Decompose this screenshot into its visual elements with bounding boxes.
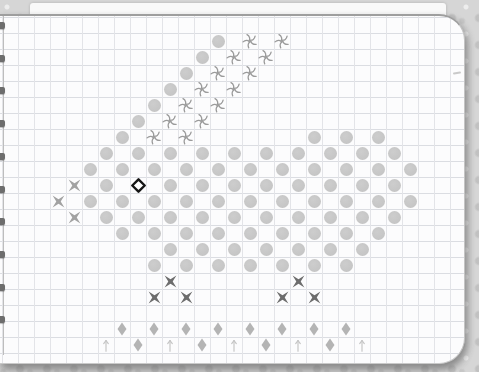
stitch-diamond — [338, 321, 354, 337]
stitch-dot — [322, 241, 338, 257]
stitch-swirl — [242, 65, 258, 81]
stitch-diamond — [274, 321, 290, 337]
stitch-dot — [162, 145, 178, 161]
stitch-diamond — [114, 321, 130, 337]
stitch-dot — [146, 193, 162, 209]
stitch-dot — [274, 225, 290, 241]
stitch-dot — [338, 129, 354, 145]
binding-stub — [0, 22, 5, 29]
stitch-cross-light — [66, 209, 82, 225]
stitch-diamond — [242, 321, 258, 337]
stitch-dot — [114, 129, 130, 145]
stitch-dot — [386, 145, 402, 161]
stitch-dot — [290, 241, 306, 257]
stitch-swirl — [242, 33, 258, 49]
stitch-dot — [162, 241, 178, 257]
stitch-dot — [130, 145, 146, 161]
stitch-dot — [306, 129, 322, 145]
stitch-dot — [402, 193, 418, 209]
stitch-swirl — [210, 97, 226, 113]
stitch-swirl — [226, 81, 242, 97]
stitch-arrow-up — [290, 337, 306, 353]
stitch-dot — [130, 209, 146, 225]
stitch-dot — [306, 193, 322, 209]
stitch-dot — [114, 161, 130, 177]
stitch-dot — [274, 257, 290, 273]
stitch-dot — [242, 225, 258, 241]
stitch-dot — [178, 225, 194, 241]
binding-stub — [0, 120, 5, 127]
stitch-dot — [226, 145, 242, 161]
stitch-diamond — [178, 321, 194, 337]
stitch-dot — [210, 161, 226, 177]
stitch-dot — [338, 193, 354, 209]
stitch-dot — [242, 193, 258, 209]
stitch-diamond — [210, 321, 226, 337]
screenshot-stage — [0, 0, 479, 372]
stitch-dot — [370, 225, 386, 241]
stitch-dot — [114, 225, 130, 241]
binding-stub — [0, 218, 5, 225]
stitch-dot — [322, 145, 338, 161]
stitch-layer — [0, 16, 464, 363]
stitch-dot — [146, 97, 162, 113]
stitch-dot — [370, 193, 386, 209]
binding-stub — [0, 87, 5, 94]
stitch-dot — [210, 193, 226, 209]
stitch-dot — [146, 257, 162, 273]
stitch-swirl — [194, 113, 210, 129]
binding-stub — [0, 251, 5, 258]
stitch-swirl — [226, 49, 242, 65]
stitch-dot — [194, 145, 210, 161]
stitch-dot — [162, 81, 178, 97]
stitch-swirl — [194, 81, 210, 97]
stitch-cross-dark — [306, 289, 322, 305]
stitch-dot — [354, 177, 370, 193]
stitch-dot — [210, 33, 226, 49]
stitch-cross-dark — [178, 289, 194, 305]
stitch-diamond — [258, 337, 274, 353]
stitch-dot — [210, 257, 226, 273]
stitch-dot — [274, 161, 290, 177]
stitch-dot — [194, 241, 210, 257]
stitch-dot — [98, 145, 114, 161]
stitch-swirl — [178, 129, 194, 145]
binding-stub — [0, 55, 5, 62]
stitch-dot — [354, 241, 370, 257]
stitch-arrow-up — [98, 337, 114, 353]
stitch-swirl — [146, 129, 162, 145]
stitch-dot — [162, 209, 178, 225]
stitch-dot — [114, 193, 130, 209]
stitch-swirl — [178, 97, 194, 113]
stitch-cross-dark — [290, 273, 306, 289]
stitch-swirl — [210, 65, 226, 81]
stitch-arrow-up — [162, 337, 178, 353]
stitch-swirl — [162, 113, 178, 129]
stitch-eye — [130, 177, 146, 193]
stitch-dot — [194, 49, 210, 65]
stitch-dot — [354, 145, 370, 161]
stitch-dot — [370, 129, 386, 145]
stitch-dot — [290, 209, 306, 225]
stitch-dot — [386, 209, 402, 225]
stitch-dot — [338, 161, 354, 177]
stitch-dot — [242, 257, 258, 273]
stitch-diamond — [130, 337, 146, 353]
stitch-dot — [98, 209, 114, 225]
stitch-dot — [226, 241, 242, 257]
stitch-diamond — [306, 321, 322, 337]
stitch-dot — [162, 177, 178, 193]
stitch-diamond — [194, 337, 210, 353]
stitch-dot — [82, 161, 98, 177]
stitch-dot — [258, 209, 274, 225]
stitch-swirl — [258, 49, 274, 65]
stitch-dot — [242, 161, 258, 177]
stitch-dot — [322, 209, 338, 225]
binding-stub — [0, 284, 5, 291]
stitch-dot — [258, 241, 274, 257]
stitch-dot — [226, 177, 242, 193]
stitch-dot — [258, 177, 274, 193]
stitch-cross-light — [66, 177, 82, 193]
stitch-diamond — [322, 337, 338, 353]
stitch-dot — [322, 177, 338, 193]
